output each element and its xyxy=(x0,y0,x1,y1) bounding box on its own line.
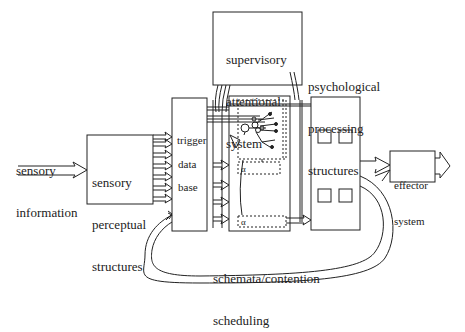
psych-label-line-1: psychological xyxy=(308,80,380,94)
schema-unit-label-1: α xyxy=(241,164,246,174)
effector-label-line-2: system xyxy=(394,215,428,227)
schema-unit-label-2: α xyxy=(241,217,246,227)
trigger-label: trigger xyxy=(177,134,206,146)
effector-label: effector system xyxy=(394,155,428,239)
sensory-perceptual-line-2: perceptual xyxy=(92,218,146,232)
effector-output-arrow xyxy=(435,152,450,178)
sensory-information-label: sensory information xyxy=(16,136,77,234)
data-label: data xyxy=(178,158,196,170)
trigger-to-schema-arrows xyxy=(213,160,229,224)
psych-label: psychological processing structures xyxy=(308,52,380,192)
sensory-perceptual-line-1: sensory xyxy=(92,176,146,190)
supervisory-label: supervisory attentional system xyxy=(226,25,287,165)
sensory-perceptual-label: sensory perceptual structures xyxy=(92,148,146,288)
supervisory-label-line-3: system xyxy=(226,137,287,151)
schemata-label: schemata/contention scheduling xyxy=(213,244,320,332)
effector-label-line-1: effector xyxy=(394,179,428,191)
trigger-input-arrow xyxy=(153,132,172,141)
base-label: base xyxy=(178,181,198,193)
schemata-label-line-2: scheduling xyxy=(213,314,320,328)
sensory-information-line-2: information xyxy=(16,206,77,220)
psych-label-line-3: structures xyxy=(308,164,380,178)
supervisory-label-line-1: supervisory xyxy=(226,53,287,67)
sensory-perceptual-line-3: structures xyxy=(92,260,146,274)
schemata-label-line-1: schemata/contention xyxy=(213,272,320,286)
perceptual-to-trigger-arrows xyxy=(153,139,172,203)
psych-label-line-2: processing xyxy=(308,122,380,136)
supervisory-label-line-2: attentional xyxy=(226,95,287,109)
sensory-information-line-1: sensory xyxy=(16,164,77,178)
